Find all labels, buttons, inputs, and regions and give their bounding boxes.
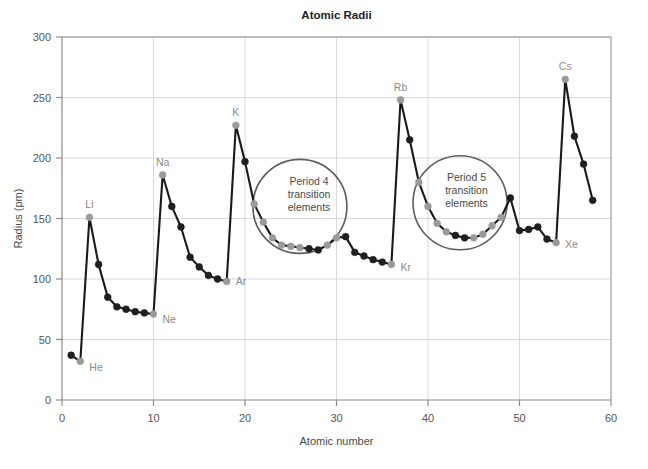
data-point-marker: [159, 172, 166, 179]
data-point-marker: [178, 224, 185, 231]
data-point-marker: [461, 234, 468, 241]
data-point-marker: [306, 245, 313, 252]
data-point-marker: [397, 97, 404, 104]
data-point-marker: [480, 231, 487, 238]
data-point-marker: [315, 247, 322, 254]
data-point-marker: [86, 214, 93, 221]
element-label-k: K: [232, 106, 239, 118]
data-point-marker: [287, 243, 294, 250]
data-point-marker: [443, 228, 450, 235]
data-point-marker: [589, 197, 596, 204]
data-point-marker: [278, 242, 285, 249]
data-point-marker: [104, 294, 111, 301]
element-label-na: Na: [156, 156, 170, 168]
data-point-marker: [77, 358, 84, 365]
y-tick-label: 100: [33, 273, 51, 285]
data-point-marker: [498, 214, 505, 221]
data-point-marker: [489, 222, 496, 229]
data-point-marker: [168, 203, 175, 210]
data-point-marker: [351, 249, 358, 256]
element-label-cs: Cs: [559, 60, 572, 72]
element-label-xe: Xe: [565, 238, 578, 250]
annotation-text-line: transition: [288, 188, 331, 200]
atomic-radii-chart: 0501001502002503000102030405060Atomic nu…: [0, 0, 648, 469]
data-point-marker: [123, 306, 130, 313]
element-label-kr: Kr: [400, 261, 411, 273]
data-point-marker: [580, 161, 587, 168]
data-point-marker: [544, 236, 551, 243]
x-tick-label: 20: [239, 412, 251, 424]
data-point-marker: [470, 234, 477, 241]
data-point-marker: [333, 234, 340, 241]
element-label-ne: Ne: [163, 313, 177, 325]
data-point-marker: [525, 226, 532, 233]
y-tick-label: 0: [45, 394, 51, 406]
data-point-marker: [141, 309, 148, 316]
data-point-marker: [562, 76, 569, 83]
data-point-marker: [68, 352, 75, 359]
y-tick-label: 300: [33, 31, 51, 43]
element-label-ar: Ar: [236, 275, 247, 287]
data-point-marker: [534, 224, 541, 231]
x-tick-label: 30: [330, 412, 342, 424]
data-point-marker: [507, 195, 514, 202]
data-point-marker: [297, 244, 304, 251]
annotation-text-line: elements: [288, 201, 331, 213]
y-tick-label: 50: [39, 334, 51, 346]
annotation-text-line: Period 5: [447, 171, 486, 183]
element-label-rb: Rb: [394, 81, 408, 93]
data-point-marker: [260, 219, 267, 226]
data-point-marker: [425, 203, 432, 210]
data-point-marker: [388, 261, 395, 268]
data-point-marker: [95, 261, 102, 268]
x-axis-title: Atomic number: [300, 435, 374, 447]
data-point-marker: [434, 220, 441, 227]
data-point-marker: [150, 311, 157, 318]
data-point-marker: [553, 239, 560, 246]
x-tick-label: 10: [147, 412, 159, 424]
chart-container: 0501001502002503000102030405060Atomic nu…: [0, 0, 648, 469]
data-point-marker: [370, 256, 377, 263]
y-axis-title: Radius (pm): [12, 189, 24, 249]
data-point-marker: [415, 179, 422, 186]
data-point-marker: [251, 201, 258, 208]
annotation-text-line: elements: [445, 197, 488, 209]
data-point-marker: [232, 122, 239, 129]
annotation-text-line: Period 4: [289, 175, 328, 187]
data-point-marker: [196, 264, 203, 271]
data-point-marker: [361, 253, 368, 260]
chart-title: Atomic Radii: [301, 9, 371, 21]
data-point-marker: [223, 278, 230, 285]
data-point-marker: [571, 133, 578, 140]
element-label-he: He: [89, 361, 103, 373]
y-tick-label: 200: [33, 152, 51, 164]
data-point-marker: [205, 272, 212, 279]
x-tick-label: 60: [605, 412, 617, 424]
data-point-marker: [406, 136, 413, 143]
x-tick-label: 40: [422, 412, 434, 424]
data-point-marker: [214, 276, 221, 283]
data-point-marker: [324, 242, 331, 249]
x-tick-label: 50: [513, 412, 525, 424]
data-point-marker: [516, 227, 523, 234]
element-label-li: Li: [85, 198, 93, 210]
data-point-marker: [379, 259, 386, 266]
x-tick-label: 0: [59, 412, 65, 424]
chart-background: [0, 0, 648, 469]
y-tick-label: 150: [33, 213, 51, 225]
data-point-marker: [132, 308, 139, 315]
data-point-marker: [452, 232, 459, 239]
data-point-marker: [187, 254, 194, 261]
data-point-marker: [242, 158, 249, 165]
data-point-marker: [342, 233, 349, 240]
data-point-marker: [114, 303, 121, 310]
data-point-marker: [269, 234, 276, 241]
y-tick-label: 250: [33, 92, 51, 104]
annotation-text-line: transition: [445, 184, 488, 196]
